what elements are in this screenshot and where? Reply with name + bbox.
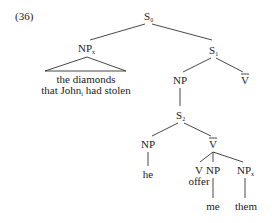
- node-s0: S0: [144, 10, 153, 23]
- node-np-upper: NP: [173, 74, 187, 86]
- node-np-x: NPx: [78, 42, 95, 55]
- edge-vbar-v: [200, 152, 213, 162]
- node-np-them: NPx: [237, 164, 254, 177]
- edge-s0-npx: [90, 24, 145, 40]
- word-offer: offer: [188, 175, 210, 187]
- node-np-he: NP: [141, 138, 155, 150]
- node-np-me: NP: [206, 164, 220, 176]
- edge-s1-np: [183, 58, 211, 72]
- syntax-tree: (36) S0 NPx the diamonds that Johni had …: [0, 0, 272, 223]
- node-s1: S1: [209, 44, 218, 57]
- node-s2: S2: [176, 109, 185, 122]
- edge-s2-vbar: [184, 123, 211, 136]
- edge-s1-vbar: [216, 58, 243, 72]
- edge-s2-np: [152, 123, 178, 136]
- word-he: he: [143, 168, 154, 180]
- word-me: me: [206, 200, 220, 212]
- node-vbar-upper: V: [241, 74, 249, 86]
- edge-s0-s1: [152, 24, 212, 40]
- edge-vbar-npx: [213, 152, 243, 162]
- triangle-npx: [45, 57, 126, 71]
- np-x-yield-line2: that Johni had stolen: [41, 84, 131, 97]
- example-number: (36): [15, 10, 34, 23]
- node-vbar-lower: V: [209, 138, 217, 150]
- word-them: them: [235, 200, 257, 212]
